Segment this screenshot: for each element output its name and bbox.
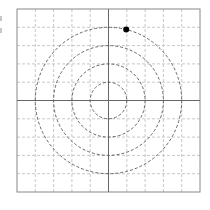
point-marker [123,26,129,32]
clipped-label-fragment [0,28,2,33]
clipped-label-fragment [0,16,2,21]
grid-canvas [0,0,210,210]
polar-grid-diagram [0,0,210,210]
